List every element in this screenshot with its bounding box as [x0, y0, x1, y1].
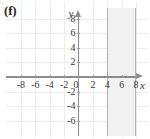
gridline-vertical	[50, 2, 51, 138]
x-tick-label: 6	[115, 80, 129, 90]
x-axis-tick	[21, 75, 22, 78]
y-axis-tick	[77, 33, 80, 34]
gridline-vertical	[35, 2, 36, 138]
x-axis-tick	[35, 75, 36, 78]
y-tick-label: 4	[62, 43, 76, 53]
y-axis-arrow-icon	[75, 10, 81, 17]
x-tick-label: -6	[28, 80, 42, 90]
x-tick-label: -8	[14, 80, 28, 90]
y-axis-tick	[77, 121, 80, 122]
y-tick-label: 2	[62, 57, 76, 67]
x-tick-label: -4	[43, 80, 57, 90]
x-axis-tick	[64, 75, 65, 78]
y-axis-tick	[77, 19, 80, 20]
y-tick-label: 6	[62, 28, 76, 38]
gridline-vertical	[136, 2, 137, 138]
y-axis-label: y	[69, 8, 74, 19]
gridline-vertical	[21, 2, 22, 138]
y-axis-tick	[77, 62, 80, 63]
x-axis-tick	[50, 75, 51, 78]
shaded-solution-region	[107, 8, 136, 136]
y-axis-tick	[77, 106, 80, 107]
panel-label: (f)	[4, 4, 16, 17]
y-tick-label: -4	[62, 101, 76, 111]
x-axis-tick	[93, 75, 94, 78]
x-axis-tick	[107, 75, 108, 78]
x-axis-line	[6, 76, 137, 78]
x-axis-label: x	[140, 80, 145, 91]
gridline-vertical	[93, 2, 94, 138]
graph-figure: -8-6-4-224688642-2-4-6 0 x y (f)	[0, 0, 150, 139]
y-axis-tick	[77, 48, 80, 49]
origin-label: 0	[72, 80, 79, 90]
x-axis-tick	[122, 75, 123, 78]
y-tick-label: -6	[62, 116, 76, 126]
y-axis-tick	[77, 92, 80, 93]
x-tick-label: 4	[100, 80, 114, 90]
x-tick-label: 2	[86, 80, 100, 90]
x-axis-tick	[136, 75, 137, 78]
